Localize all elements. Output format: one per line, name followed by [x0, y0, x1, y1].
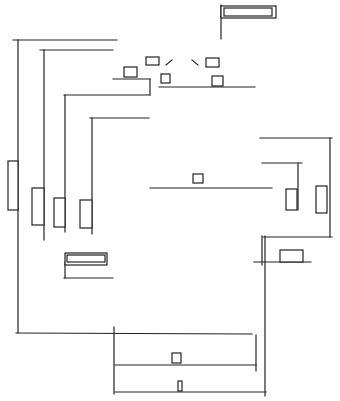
vertical-component	[54, 198, 65, 227]
small-component	[178, 381, 182, 391]
component-box	[206, 58, 219, 67]
vertical-component	[80, 200, 92, 228]
wire-line	[166, 60, 172, 65]
component-box	[280, 250, 303, 262]
schematic-diagram	[0, 0, 340, 401]
left-box-inner	[67, 255, 105, 262]
component-box	[146, 57, 159, 65]
wire-line	[192, 60, 198, 65]
component-box	[124, 67, 137, 77]
wire-line	[16, 333, 252, 334]
vertical-component	[316, 186, 327, 213]
top-right-box-inner	[224, 8, 272, 16]
diagram-svg	[0, 0, 340, 401]
vertical-component	[8, 161, 18, 210]
component-box	[172, 353, 181, 363]
component-box	[212, 76, 223, 86]
vertical-component	[286, 189, 297, 210]
vertical-component	[32, 188, 44, 225]
component-box	[193, 174, 203, 183]
component-box	[161, 74, 170, 83]
